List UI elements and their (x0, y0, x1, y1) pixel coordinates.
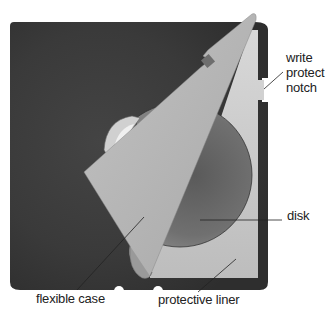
label-write-protect-notch: write protect notch (286, 50, 328, 95)
label-protective-liner: protective liner (158, 292, 239, 307)
label-line: protect (286, 65, 328, 80)
label-line: notch (286, 80, 328, 95)
label-line: write (286, 50, 328, 65)
label-disk: disk (287, 208, 309, 223)
floppy-disk-diagram (0, 0, 328, 314)
label-flexible-case: flexible case (36, 291, 105, 306)
